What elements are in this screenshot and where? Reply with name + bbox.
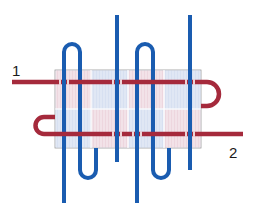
thread-label-end: 2 — [229, 145, 237, 160]
weave-diagram: 1 2 — [0, 0, 259, 217]
weave-svg — [0, 0, 259, 217]
thread-label-start: 1 — [12, 63, 20, 78]
